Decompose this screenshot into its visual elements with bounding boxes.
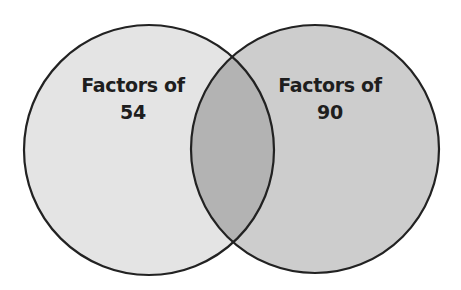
label-left-line2: 54	[63, 99, 203, 126]
label-factors-of-90: Factors of 90	[260, 72, 400, 126]
label-right-line2: 90	[260, 99, 400, 126]
venn-diagram: Factors of 54 Factors of 90	[0, 0, 461, 290]
venn-svg	[0, 0, 461, 290]
label-left-line1: Factors of	[63, 72, 203, 99]
label-factors-of-54: Factors of 54	[63, 72, 203, 126]
label-right-line1: Factors of	[260, 72, 400, 99]
